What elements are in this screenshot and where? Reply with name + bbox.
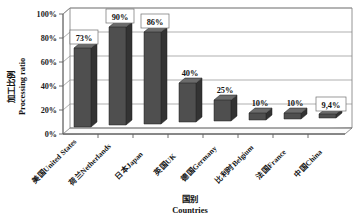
y-tick-label: 40% [41,82,57,91]
bar-series-item [214,95,237,121]
y-tick-label: 80% [41,34,57,43]
bar-value-label: 10% [287,99,304,108]
bar-value-text: 90% [112,13,129,22]
y-tick-label: 60% [41,58,57,67]
bar-value-label: 40% [182,69,199,78]
bar-series-item [179,78,202,122]
x-axis [63,134,345,138]
x-category-label: 法国France [253,146,288,181]
bar-value-text: 40% [182,69,199,78]
x-category-label: 英国UK [151,151,178,178]
y-axis-title-en: Processing ratio [18,58,27,115]
bar-series-item [74,43,97,127]
y-axis-title: 加工比例 Processing ratio [6,58,27,115]
x-axis-title-en: Countries [172,206,208,215]
y-tick-label: 100% [37,10,57,19]
y-tick-labels: 100% 80% 60% 40% 20% 0% [37,10,57,139]
y-axis-title-cn: 加工比例 [6,71,16,104]
bar-value-label: 90% [106,9,134,23]
bar-value-label: 9,4% [316,97,346,111]
bar-value-text: 10% [287,99,304,108]
bar-series-item [144,27,167,124]
y-tick-label: 0% [45,130,57,139]
plot-area-3d-frame [63,8,352,134]
bar-value-label: 86% [141,14,169,28]
x-axis-title: 国别 Countries [172,194,208,215]
bar-series-item [249,108,272,120]
bar-value-label: 25% [217,86,234,95]
x-category-label: 德国Germany [178,143,219,184]
bar-value-text: 10% [252,99,269,108]
bar-value-label: 10% [252,99,269,108]
y-tick-label: 20% [41,106,57,115]
bar-chart-figure: 100% 80% 60% 40% 20% 0% 加工比例 Processing … [0,0,360,223]
bar-value-label: 73% [70,30,98,44]
chart-canvas: 100% 80% 60% 40% 20% 0% 加工比例 Processing … [0,0,360,223]
bar-value-text: 86% [147,18,164,27]
bar-series-item [109,22,132,125]
x-category-label: 比利时Belgium [212,142,256,186]
bar-value-text: 73% [76,34,93,43]
bar-value-text: 9,4% [322,101,341,110]
x-category-label: 日本Japan [112,148,145,181]
bar-value-text: 25% [217,86,234,95]
y-axis [59,14,63,134]
x-category-label: 中国China [291,147,324,180]
x-category-labels: 美国United States 荷兰Netherlands 日本Japan 英国… [29,136,324,188]
x-axis-title-cn: 国别 [182,194,198,204]
